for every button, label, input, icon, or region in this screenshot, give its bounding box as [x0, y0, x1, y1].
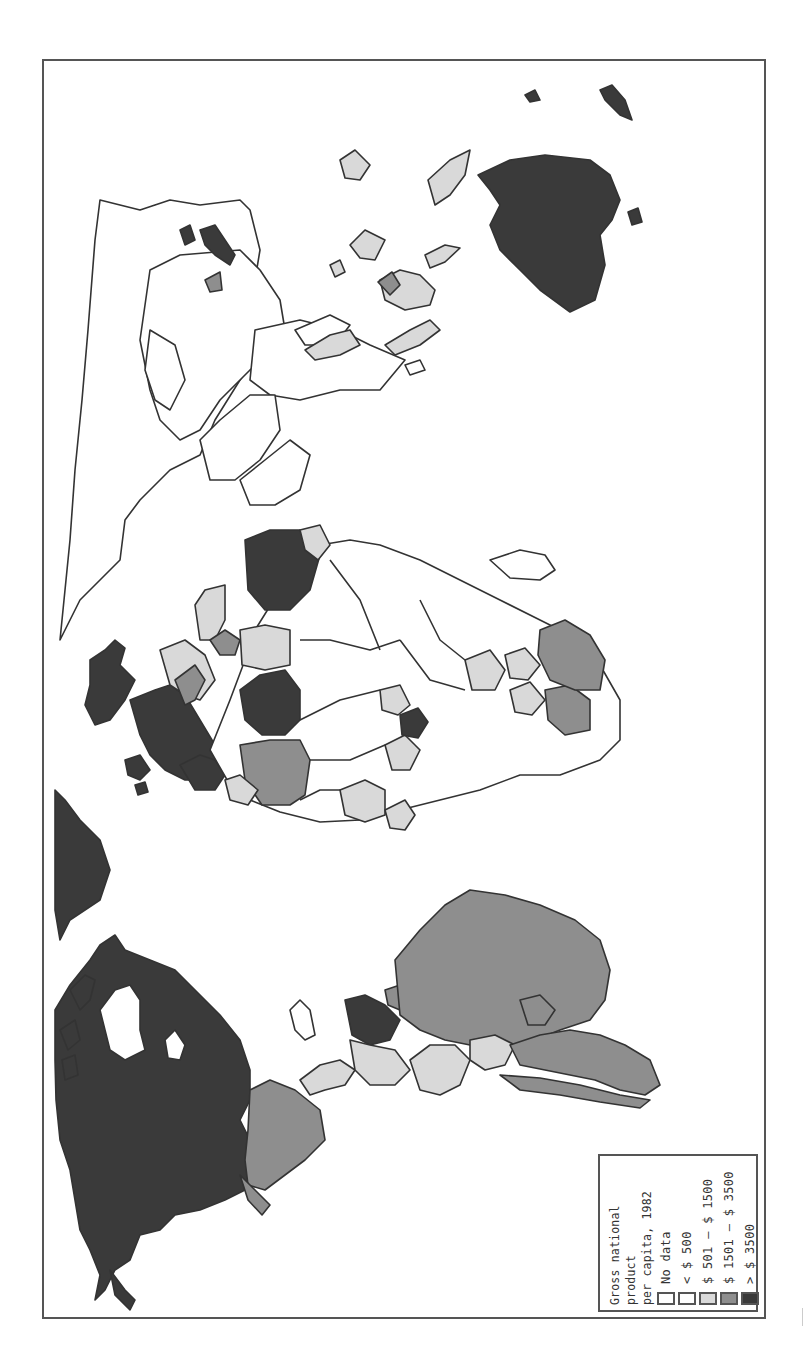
region-philippines	[428, 150, 470, 205]
region-ireland	[135, 782, 148, 795]
region-brazil	[395, 890, 610, 1050]
legend-title-line2: per capita, 1982	[639, 1161, 655, 1305]
region-java	[425, 245, 460, 268]
region-tasmania	[628, 208, 642, 225]
region-australia	[478, 155, 620, 312]
legend-item-501-1500: $ 501 – $ 1500	[697, 1161, 718, 1305]
region-turkey	[195, 585, 225, 640]
region-caribbean-cuba	[290, 1000, 315, 1040]
region-sri-lanka	[405, 360, 425, 375]
region-taiwan	[330, 260, 345, 277]
legend-label: > $ 3500	[744, 1224, 756, 1284]
map-legend: Gross national product per capita, 1982 …	[598, 1154, 758, 1312]
swatch-no-data	[657, 1292, 675, 1305]
legend-item-under-500: < $ 500	[676, 1161, 697, 1305]
legend-title-line1: Gross national product	[607, 1161, 639, 1305]
region-colombia	[350, 1040, 410, 1085]
region-uk	[125, 755, 150, 780]
legend-item-over-3500: > $ 3500	[739, 1161, 760, 1305]
region-sulawesi	[350, 230, 385, 260]
legend-label: $ 501 – $ 1500	[702, 1179, 714, 1284]
region-peru	[410, 1045, 470, 1095]
region-mexico	[245, 1080, 325, 1190]
region-central-america	[300, 1060, 355, 1095]
legend-label: $ 1501 – $ 3500	[723, 1171, 735, 1284]
region-egypt	[240, 625, 290, 670]
region-alaska-tail	[110, 1270, 135, 1310]
legend-item-1501-3500: $ 1501 – $ 3500	[718, 1161, 739, 1305]
legend-label: < $ 500	[681, 1231, 693, 1284]
legend-item-no-data: No data	[655, 1161, 676, 1305]
region-scandinavia	[85, 640, 135, 725]
region-new-zealand-south	[525, 90, 540, 102]
region-new-guinea	[340, 150, 370, 180]
legend-label: No data	[660, 1231, 672, 1284]
swatch-under-500	[678, 1292, 696, 1305]
swatch-1501-3500	[720, 1292, 738, 1305]
region-madagascar	[490, 550, 555, 580]
scan-mark	[802, 1308, 803, 1326]
swatch-over-3500	[741, 1292, 759, 1305]
region-greenland	[55, 790, 110, 940]
region-new-zealand-north	[600, 85, 632, 120]
region-sumatra	[385, 320, 440, 355]
swatch-501-1500	[699, 1292, 717, 1305]
